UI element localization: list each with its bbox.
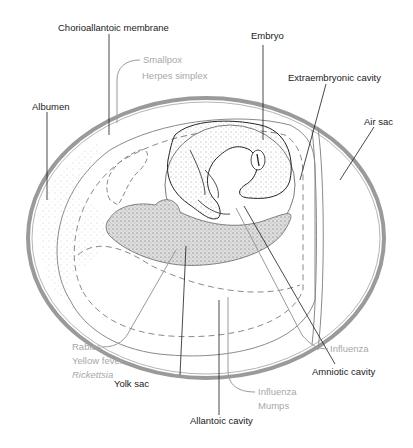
label-embryo: Embryo	[251, 30, 284, 41]
pathogen-rickettsia: Rickettsia	[72, 369, 113, 380]
pathogen-influenza-allantoic: Influenza	[258, 386, 297, 397]
pathogen-influenza-amniotic: Influenza	[330, 343, 369, 354]
label-yolk-sac: Yolk sac	[114, 378, 149, 389]
pathogen-smallpox: Smallpox	[143, 54, 182, 65]
egg-diagram: Chorioallantoic membrane Embryo Extraemb…	[0, 0, 413, 448]
label-amniotic-cavity: Amniotic cavity	[312, 366, 376, 377]
pathogen-rabies: Rabies	[72, 341, 102, 352]
pathogen-mumps: Mumps	[258, 400, 289, 411]
label-allantoic-cavity: Allantoic cavity	[190, 415, 253, 426]
label-chorioallantoic-membrane: Chorioallantoic membrane	[58, 22, 169, 33]
pathogen-yellow-fever: Yellow fever	[72, 355, 123, 366]
label-extraembryonic-cavity: Extraembryonic cavity	[288, 72, 381, 83]
label-albumen: Albumen	[32, 101, 70, 112]
pathogen-herpes-simplex: Herpes simplex	[142, 70, 208, 81]
label-air-sac: Air sac	[364, 116, 393, 127]
